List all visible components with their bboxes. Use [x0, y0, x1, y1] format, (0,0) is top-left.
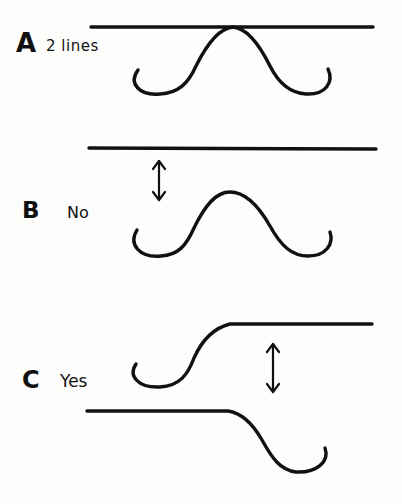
panel-b-wave-curve: [134, 192, 331, 256]
panel-c-note: Yes: [60, 373, 87, 390]
diagram-drawing: [0, 0, 402, 504]
panel-c-gap-arrow-icon: [267, 344, 279, 392]
panel-c-label: C: [22, 368, 40, 392]
panel-b-drawing: [89, 148, 376, 256]
panel-a-drawing: [91, 27, 373, 94]
panel-b-gap-arrow-icon: [153, 161, 165, 200]
panel-b-label: B: [22, 199, 40, 222]
panel-a-note: 2 lines: [46, 39, 99, 54]
panel-a-wave-curve: [134, 27, 330, 94]
panel-c-drawing: [87, 324, 372, 472]
panel-b-horizontal-line: [89, 148, 376, 149]
panel-c-upper-curve: [133, 324, 372, 387]
panel-c-lower-curve: [87, 411, 326, 472]
panel-b-note: No: [67, 205, 89, 221]
diagram-canvas: A 2 lines B No C Yes: [0, 0, 402, 504]
panel-a-label: A: [16, 30, 36, 56]
